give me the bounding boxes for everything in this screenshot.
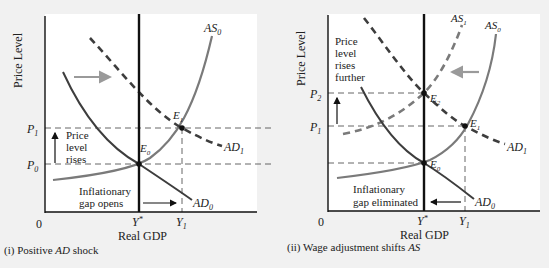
- point-e1: [462, 123, 468, 129]
- x-axis-label: Real GDP: [400, 228, 449, 242]
- svg-text:level: level: [66, 141, 87, 153]
- point-e0: [421, 160, 427, 166]
- point-e2: [421, 90, 427, 96]
- svg-text:gap eliminated: gap eliminated: [353, 196, 419, 208]
- y-axis-label: Price Level: [11, 32, 25, 88]
- svg-text:Price: Price: [66, 129, 89, 141]
- svg-text:Price: Price: [335, 35, 358, 47]
- plot-area: [328, 14, 540, 211]
- svg-text:rises: rises: [66, 153, 86, 165]
- y-axis-label: Price Level: [294, 30, 308, 86]
- x-tick-ystar: Y*: [132, 215, 143, 229]
- y-tick-p1: P1: [26, 122, 38, 138]
- y-tick-p1: P1: [309, 120, 321, 136]
- origin-label: 0: [36, 217, 42, 231]
- plot-area: [45, 14, 257, 212]
- panel-right: Price Level Real GDP 0 P2 P1 Y* Y1 AS1 A…: [287, 12, 540, 254]
- origin-label: 0: [318, 215, 324, 229]
- svg-text:Inflationary: Inflationary: [79, 185, 131, 197]
- caption-right: (ii) Wage adjustment shifts AS: [287, 241, 421, 254]
- svg-text:further: further: [335, 71, 365, 83]
- panel-left: Price Level Real GDP 0 P1 P0 Y* Y1 AS0 A…: [4, 14, 275, 257]
- x-tick-y1: Y1: [459, 214, 470, 230]
- point-e0: [136, 161, 142, 167]
- svg-text:rises: rises: [335, 59, 355, 71]
- svg-text:level: level: [335, 47, 356, 59]
- x-tick-y1: Y1: [176, 215, 187, 231]
- x-axis-label: Real GDP: [118, 229, 167, 243]
- caption-left: (i) Positive AD shock: [4, 244, 99, 257]
- svg-text:gap opens: gap opens: [79, 197, 123, 209]
- ad-as-figure: Price Level Real GDP 0 P1 P0 Y* Y1 AS0 A…: [0, 0, 549, 268]
- y-tick-p2: P2: [309, 87, 321, 103]
- x-tick-ystar: Y*: [417, 214, 428, 228]
- y-tick-p0: P0: [26, 158, 38, 174]
- svg-text:Inflationary: Inflationary: [353, 183, 405, 195]
- point-e1: [179, 125, 185, 131]
- price-note: Price level rises: [66, 129, 89, 165]
